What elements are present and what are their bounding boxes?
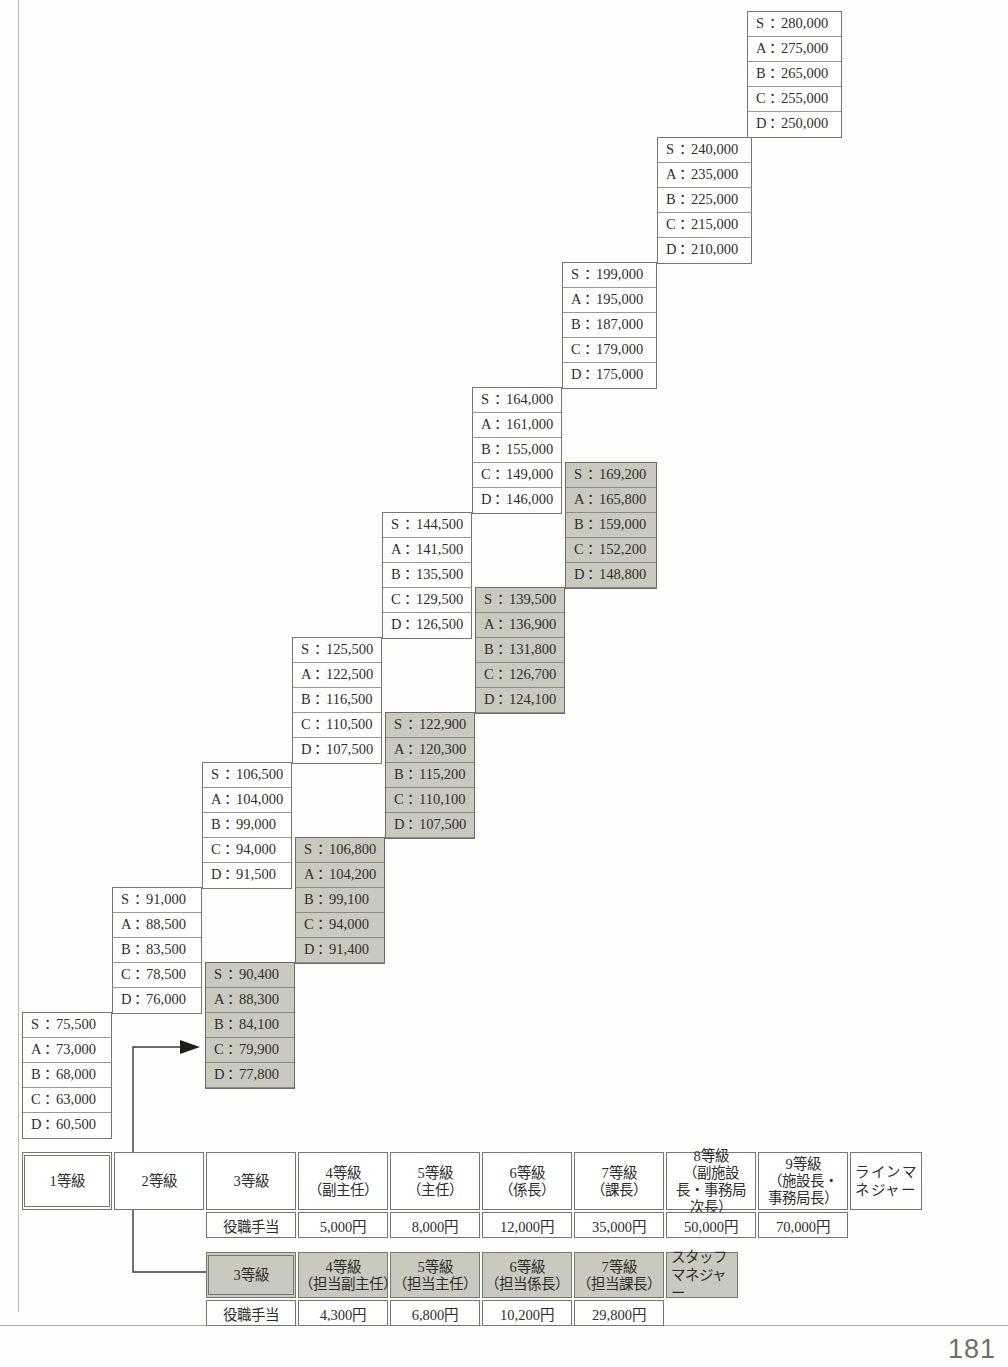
line-grade-cell-6[interactable]: 6等級（係長）	[482, 1152, 572, 1210]
line-manager-label-cell[interactable]: ラインマネジャー	[850, 1152, 922, 1210]
salary-block-grade-4: S：125,500A：122,500B：116,500C：110,500D：10…	[292, 637, 382, 764]
staff-allowance-value: 29,800円	[574, 1300, 664, 1326]
rank-label: B	[571, 313, 584, 336]
line-grade-cell-7[interactable]: 7等級（課長）	[574, 1152, 664, 1210]
rank-separator: ：	[404, 588, 416, 611]
rank-separator: ：	[44, 1063, 56, 1086]
rank-separator: ：	[769, 87, 781, 110]
rank-label: C	[121, 963, 134, 986]
salary-cell: D：124,100	[476, 688, 564, 713]
rank-label: A	[304, 863, 317, 886]
salary-block-staff-grade-6: S：139,500A：136,900B：131,800C：126,700D：12…	[475, 587, 565, 714]
line-grade-cell-9[interactable]: 9等級（施設長・事務局長）	[758, 1152, 848, 1210]
rank-label: A	[484, 613, 497, 636]
line-allowance-value: 5,000円	[298, 1212, 388, 1238]
salary-amount: 235,000	[691, 166, 738, 182]
rank-label: B	[211, 813, 224, 836]
salary-amount: 159,000	[599, 516, 646, 532]
staff-manager-label-cell[interactable]: スタッフマネジャー	[666, 1252, 738, 1298]
salary-amount: 265,000	[781, 65, 828, 81]
salary-block-staff-grade-3: S：90,400A：88,300B：84,100C：79,900D：77,800	[205, 962, 295, 1089]
salary-amount: 165,800	[599, 491, 646, 507]
page-canvas: 181 S：75,500A：73,000B：68,000C：63,000D：60…	[0, 0, 1008, 1367]
rank-separator: ：	[227, 1063, 239, 1086]
salary-cell: A：136,900	[476, 613, 564, 638]
grade-label: 5等級	[391, 1258, 479, 1276]
grade-label: 6等級	[483, 1258, 571, 1276]
salary-cell: C：110,100	[386, 788, 474, 813]
salary-cell: D：126,500	[383, 613, 471, 638]
rank-label: S	[394, 713, 407, 736]
rank-label: B	[394, 763, 407, 786]
rank-separator: ：	[587, 538, 599, 561]
rank-label: S	[214, 963, 227, 986]
line-manager-grade-row: 1等級2等級3等級4等級（副主任）5等級（主任）6等級（係長）7等級（課長）8等…	[22, 1152, 924, 1210]
salary-amount: 75,500	[56, 1016, 96, 1032]
staff-grade-cell-3[interactable]: 3等級	[206, 1252, 296, 1298]
staff-grade-cell-7[interactable]: 7等級（担当課長）	[574, 1252, 664, 1298]
staff-grade-cell-6[interactable]: 6等級（担当係長）	[482, 1252, 572, 1298]
rank-separator: ：	[584, 363, 596, 386]
rank-label: A	[211, 788, 224, 811]
rank-label: S	[301, 638, 314, 661]
line-grade-cell-5[interactable]: 5等級（主任）	[390, 1152, 480, 1210]
rank-label: D	[214, 1063, 227, 1086]
salary-cell: B：115,200	[386, 763, 474, 788]
rank-separator: ：	[317, 888, 329, 911]
line-grade-cell-4[interactable]: 4等級（副主任）	[298, 1152, 388, 1210]
rank-label: D	[211, 863, 224, 886]
rank-label: B	[574, 513, 587, 536]
line-grade-cell-1[interactable]: 1等級	[22, 1152, 112, 1210]
salary-cell: D：60,500	[23, 1113, 111, 1138]
rank-separator: ：	[314, 713, 326, 736]
line-allowance-value: 50,000円	[666, 1212, 756, 1238]
salary-cell: C：78,500	[113, 963, 201, 988]
salary-cell: C：149,000	[473, 463, 561, 488]
salary-cell: A：88,500	[113, 913, 201, 938]
staff-grade-cell-5[interactable]: 5等級（担当主任）	[390, 1252, 480, 1298]
salary-cell: D：91,400	[296, 938, 384, 963]
line-grade-cell-2[interactable]: 2等級	[114, 1152, 204, 1210]
rank-label: C	[394, 788, 407, 811]
rank-label: S	[304, 838, 317, 861]
salary-cell: D：210,000	[658, 238, 751, 263]
staff-manager-grade-row: 3等級4等級（担当副主任）5等級（担当主任）6等級（担当係長）7等級（担当課長）…	[206, 1252, 740, 1298]
salary-cell: A：88,300	[206, 988, 294, 1013]
staff-grade-cell-4[interactable]: 4等級（担当副主任）	[298, 1252, 388, 1298]
rank-separator: ：	[587, 563, 599, 586]
salary-amount: 195,000	[596, 291, 643, 307]
rank-separator: ：	[404, 563, 416, 586]
salary-cell: A：120,300	[386, 738, 474, 763]
rank-label: D	[304, 938, 317, 961]
line-allowance-header: 役職手当	[206, 1212, 296, 1238]
line-grade-cell-8[interactable]: 8等級（副施設長・事務局次長）	[666, 1152, 756, 1210]
salary-amount: 120,300	[419, 741, 466, 757]
salary-amount: 94,000	[329, 916, 369, 932]
rank-separator: ：	[769, 62, 781, 85]
salary-cell: D：250,000	[748, 112, 841, 137]
salary-cell: B：265,000	[748, 62, 841, 87]
line-allowance-value: 35,000円	[574, 1212, 664, 1238]
salary-amount: 175,000	[596, 366, 643, 382]
salary-cell: C：129,500	[383, 588, 471, 613]
grade-sublabel: （担当係長）	[483, 1276, 571, 1293]
salary-amount: 122,900	[419, 716, 466, 732]
rank-separator: ：	[317, 913, 329, 936]
grade-sublabel: （副施設長・事務局次長）	[667, 1165, 755, 1216]
rank-separator: ：	[587, 513, 599, 536]
salary-cell: B：99,000	[203, 813, 291, 838]
salary-amount: 99,000	[236, 816, 276, 832]
rank-separator: ：	[224, 863, 236, 886]
salary-amount: 131,800	[509, 641, 556, 657]
rank-separator: ：	[494, 463, 506, 486]
salary-amount: 68,000	[56, 1066, 96, 1082]
salary-cell: A：195,000	[563, 288, 656, 313]
salary-amount: 240,000	[691, 141, 738, 157]
salary-cell: B：135,500	[383, 563, 471, 588]
rank-separator: ：	[584, 288, 596, 311]
salary-cell: A：161,000	[473, 413, 561, 438]
rank-separator: ：	[407, 738, 419, 761]
salary-amount: 84,100	[239, 1016, 279, 1032]
line-grade-cell-3[interactable]: 3等級	[206, 1152, 296, 1210]
salary-block-staff-grade-4: S：106,800A：104,200B：99,100C：94,000D：91,4…	[295, 837, 385, 964]
